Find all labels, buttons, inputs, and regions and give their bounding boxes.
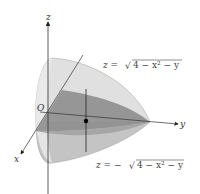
svg-text:z =: z = xyxy=(102,60,118,70)
svg-text:z = −: z = − xyxy=(95,160,122,170)
x-axis-label: x xyxy=(14,154,19,164)
origin-label: O xyxy=(37,103,45,113)
svg-text:4 − x² − y: 4 − x² − y xyxy=(133,60,180,70)
svg-text:√: √ xyxy=(129,161,135,171)
z-axis-label: z xyxy=(45,12,51,22)
diagram-canvas: z y x O z = √ 4 − x² − y z = − √ 4 − x² … xyxy=(0,0,200,194)
upper-surface-equation: z = √ 4 − x² − y xyxy=(102,60,182,71)
sample-point xyxy=(84,119,88,123)
paraboloid-diagram: z y x O z = √ 4 − x² − y z = − √ 4 − x² … xyxy=(0,0,200,194)
y-axis-label: y xyxy=(179,119,186,129)
svg-text:√: √ xyxy=(125,61,131,71)
svg-text:4 − x² − y: 4 − x² − y xyxy=(137,160,184,170)
lower-surface-equation: z = − √ 4 − x² − y xyxy=(95,160,184,171)
